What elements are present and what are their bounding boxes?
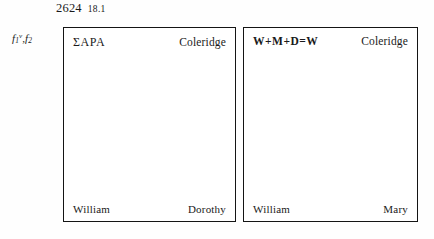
diagram-bottom-right-label: Mary [383,203,408,215]
diagram-header-row: W+M+D=W Coleridge [244,35,417,47]
scanned-page: 2624 18.1 f1v,f2 ΣAPA Coleridge William … [0,0,434,239]
diagram-header-row: ΣAPA Coleridge [64,35,235,50]
diagram-top-left-label: ΣAPA [73,35,105,50]
running-head: 2624 18.1 [56,1,106,16]
diagram-bottom-left-label: William [73,203,110,215]
folio-reference: f1v,f2 [12,32,32,44]
section-number: 18.1 [88,4,106,14]
diagram-footer-row: William Dorothy [64,203,235,215]
folio-second-number: 2 [28,36,32,45]
diagram-box-left: ΣAPA Coleridge William Dorothy [63,27,236,222]
folio-first-side: v [19,32,22,40]
diagram-top-left-formula: W+M+D=W [253,35,318,47]
diagram-bottom-right-label: Dorothy [188,203,226,215]
diagram-top-right-label: Coleridge [179,36,226,48]
diagram-footer-row: William Mary [244,203,417,215]
diagram-bottom-left-label: William [253,203,290,215]
page-number: 2624 [56,1,82,16]
diagram-top-right-label: Coleridge [361,35,408,47]
diagram-box-right: W+M+D=W Coleridge William Mary [243,27,418,222]
